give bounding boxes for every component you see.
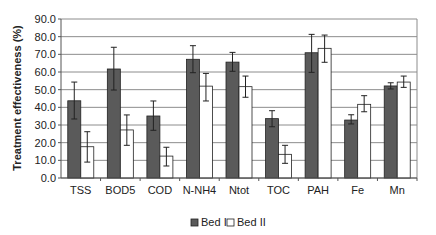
bar-bed-i xyxy=(186,59,199,178)
x-tick-label: N-NH4 xyxy=(183,184,217,196)
y-tick-label: 90.0 xyxy=(35,13,56,25)
legend-label: Bed I xyxy=(201,216,227,228)
bar-bed-ii xyxy=(397,82,410,178)
x-tick-label: TOC xyxy=(267,184,290,196)
x-tick-label: TSS xyxy=(70,184,91,196)
legend-swatch xyxy=(227,219,234,226)
x-tick-label: COD xyxy=(148,184,173,196)
bar-bed-ii xyxy=(239,87,252,178)
x-tick-label: Fe xyxy=(351,184,364,196)
x-tick-label: Mn xyxy=(390,184,405,196)
x-axis-labels: TSSBOD5CODN-NH4NtotTOCPAHFeMn xyxy=(61,178,417,196)
y-tick-label: 50.0 xyxy=(35,84,56,96)
y-tick-label: 0.0 xyxy=(41,172,56,184)
legend-label: Bed II xyxy=(237,216,266,228)
x-tick-label: PAH xyxy=(307,184,329,196)
bar-bed-i xyxy=(345,120,358,178)
y-axis-label: Treatment effectiveness (%) xyxy=(11,25,23,171)
y-tick-label: 80.0 xyxy=(35,31,56,43)
y-tick-label: 60.0 xyxy=(35,66,56,78)
x-tick-label: Ntot xyxy=(229,184,249,196)
y-tick-label: 70.0 xyxy=(35,48,56,60)
bar-bed-i xyxy=(226,62,239,178)
x-tick-label: BOD5 xyxy=(105,184,135,196)
y-axis-ticks: 0.010.020.030.040.050.060.070.080.090.0 xyxy=(35,13,61,184)
y-tick-label: 30.0 xyxy=(35,119,56,131)
y-tick-label: 40.0 xyxy=(35,101,56,113)
bar-bed-i xyxy=(384,86,397,178)
bar-bed-ii xyxy=(358,104,371,178)
bar-bed-i xyxy=(266,119,279,178)
legend: Bed IBed II xyxy=(191,216,266,228)
bar-bed-ii xyxy=(318,48,331,178)
bars xyxy=(68,34,410,178)
y-tick-label: 20.0 xyxy=(35,137,56,149)
bar-chart: 0.010.020.030.040.050.060.070.080.090.0 … xyxy=(0,0,436,235)
legend-swatch xyxy=(191,219,198,226)
y-tick-label: 10.0 xyxy=(35,154,56,166)
